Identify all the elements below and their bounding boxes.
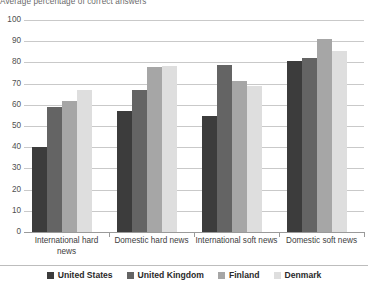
x-axis-category-label: Domestic hard news [109,236,194,247]
y-tick-label-50: 50 [0,122,21,130]
x-axis-category-label: Domestic soft news [279,236,364,247]
x-axis-group-tick [364,232,365,237]
x-axis-category-label: International hard news [24,236,109,257]
bar[interactable] [62,101,77,232]
bar[interactable] [302,58,317,232]
x-axis-category-labels: International hard newsDomestic hard new… [24,236,364,264]
legend-swatch-icon [274,272,281,279]
y-tick-label-60: 60 [0,101,21,109]
legend-label: United Kingdom [138,270,204,280]
chart-legend: United StatesUnited KingdomFinlandDenmar… [0,270,368,280]
legend-swatch-icon [218,272,225,279]
bar[interactable] [77,90,92,232]
bar-group [287,20,347,232]
legend-label: United States [58,270,113,280]
legend-label: Finland [229,270,260,280]
bar-group [32,20,92,232]
legend-item[interactable]: Finland [218,270,260,280]
legend-item[interactable]: United Kingdom [127,270,204,280]
bar[interactable] [332,51,347,232]
legend-divider [0,265,368,266]
bar[interactable] [132,90,147,232]
y-tick-label-20: 20 [0,185,21,193]
legend-item[interactable]: Denmark [274,270,322,280]
y-tick-label-0: 0 [0,228,21,236]
bar[interactable] [162,66,177,232]
bar[interactable] [247,86,262,232]
bar[interactable] [232,81,247,232]
chart-title: Average percentage of correct answers [0,0,146,6]
y-tick-label-70: 70 [0,79,21,87]
plot-area [24,20,364,232]
legend-item[interactable]: United States [47,270,113,280]
bar[interactable] [32,147,47,232]
bar-group [202,20,262,232]
y-tick-label-80: 80 [0,58,21,66]
bar[interactable] [117,111,132,232]
y-axis-tick-labels: 1009080706050403020100 [0,20,21,232]
bar[interactable] [217,65,232,232]
bar[interactable] [202,116,217,232]
bar-group [117,20,177,232]
bar[interactable] [47,107,62,232]
y-tick-label-100: 100 [0,16,21,24]
bars-layer [24,20,364,232]
y-tick-label-10: 10 [0,207,21,215]
bar[interactable] [287,61,302,232]
legend-swatch-icon [127,272,134,279]
y-tick-label-40: 40 [0,143,21,151]
y-tick-label-90: 90 [0,37,21,45]
y-tick-label-30: 30 [0,164,21,172]
legend-swatch-icon [47,272,54,279]
bar[interactable] [317,39,332,232]
bar[interactable] [147,67,162,232]
x-axis-category-label: International soft news [194,236,279,247]
legend-label: Denmark [285,270,322,280]
